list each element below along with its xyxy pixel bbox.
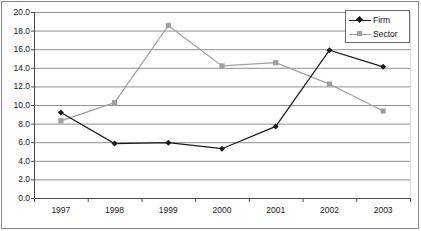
x-axis-label: 1999 xyxy=(148,206,188,215)
legend-swatch-sector xyxy=(349,29,371,40)
data-point-sector xyxy=(166,23,171,28)
data-point-firm xyxy=(112,141,118,147)
legend-item-firm: Firm xyxy=(349,13,390,27)
legend-label-sector: Sector xyxy=(371,30,398,39)
data-point-sector xyxy=(219,63,224,68)
y-axis-label: 14.0 xyxy=(2,64,30,73)
data-point-sector xyxy=(273,60,278,65)
legend: Firm Sector xyxy=(345,10,410,43)
diamond-marker-icon xyxy=(356,15,363,22)
legend-label-firm: Firm xyxy=(371,16,390,25)
x-axis-label: 2000 xyxy=(202,206,242,215)
y-axis-label: 6.0 xyxy=(2,138,30,147)
series-line-sector xyxy=(61,25,383,120)
x-axis-label: 1998 xyxy=(95,206,135,215)
data-point-firm xyxy=(165,140,171,146)
y-axis-label: 2.0 xyxy=(2,175,30,184)
x-axis-label: 1997 xyxy=(41,206,81,215)
data-point-firm xyxy=(58,109,64,115)
y-axis-label: 8.0 xyxy=(2,120,30,129)
y-axis-label: 12.0 xyxy=(2,82,30,91)
y-axis-label: 4.0 xyxy=(2,157,30,166)
x-axis-label: 2002 xyxy=(309,206,349,215)
y-axis-label: 20.0 xyxy=(2,8,30,17)
y-axis-label: 10.0 xyxy=(2,101,30,110)
legend-item-sector: Sector xyxy=(349,27,398,41)
chart-container: 20.018.016.014.012.010.08.06.04.02.00.0 … xyxy=(0,0,421,231)
y-axis-label: 16.0 xyxy=(2,45,30,54)
legend-swatch-firm xyxy=(349,15,371,26)
data-point-sector xyxy=(112,100,117,105)
data-point-sector xyxy=(381,108,386,113)
data-point-firm xyxy=(380,64,386,70)
x-axis-label: 2003 xyxy=(363,206,403,215)
data-point-sector xyxy=(327,81,332,86)
y-axis-label: 18.0 xyxy=(2,27,30,36)
data-point-firm xyxy=(219,146,225,152)
square-marker-icon xyxy=(357,31,362,36)
x-axis-label: 2001 xyxy=(256,206,296,215)
data-point-sector xyxy=(58,118,63,123)
y-axis-label: 0.0 xyxy=(2,194,30,203)
